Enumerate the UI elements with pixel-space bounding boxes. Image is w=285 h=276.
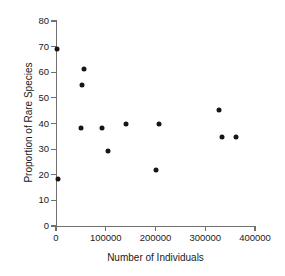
y-tick-label: 60 (38, 67, 49, 77)
y-tick-label: 80 (38, 16, 49, 26)
data-point (216, 107, 221, 112)
x-tick (205, 226, 206, 231)
data-point (153, 168, 158, 173)
x-tick (105, 226, 106, 231)
x-tick-label: 300000 (189, 233, 221, 243)
x-tick (55, 226, 56, 231)
plot-area (56, 21, 255, 226)
x-tick (155, 226, 156, 231)
data-point (219, 134, 224, 139)
x-tick-label: 0 (53, 233, 58, 243)
data-point (124, 121, 129, 126)
data-point (80, 82, 85, 87)
data-point (54, 46, 59, 51)
data-point (233, 134, 238, 139)
y-tick-label: 10 (38, 195, 49, 205)
y-tick-label: 20 (38, 170, 49, 180)
y-tick-label: 0 (44, 221, 49, 231)
data-point (55, 176, 60, 181)
y-tick-label: 70 (38, 42, 49, 52)
x-axis-title: Number of Individuals (56, 252, 255, 263)
x-tick (254, 226, 255, 231)
data-point (82, 66, 87, 71)
data-point (100, 125, 105, 130)
x-tick-label: 400000 (239, 233, 271, 243)
data-point (157, 121, 162, 126)
y-tick-label: 40 (38, 119, 49, 129)
scatter-plot-figure: 01020304050607080 0100000200000300000400… (0, 0, 285, 276)
y-tick-label: 50 (38, 93, 49, 103)
x-tick-label: 100000 (90, 233, 122, 243)
data-point (79, 125, 84, 130)
data-point (106, 149, 111, 154)
y-axis-title: Proportion of Rare Species (23, 38, 34, 208)
x-tick-label: 200000 (140, 233, 172, 243)
y-tick-label: 30 (38, 144, 49, 154)
